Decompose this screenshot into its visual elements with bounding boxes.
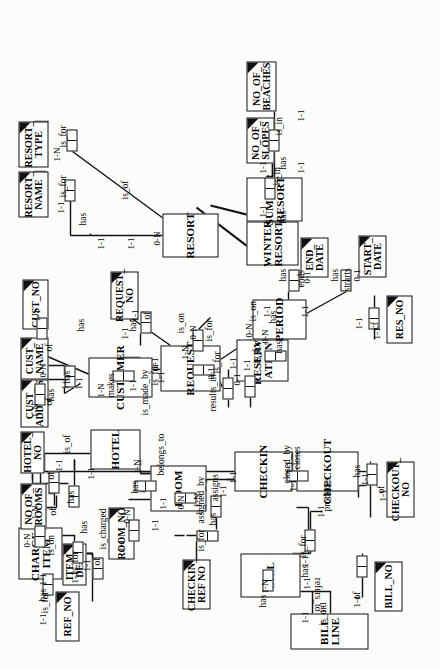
cardinality-c59: 0-N — [152, 231, 161, 245]
relationship-box-r24 — [244, 375, 255, 397]
cardinality-c10: 1-1 — [352, 595, 361, 607]
attribute-box-bill_no: BILL_NO — [374, 561, 402, 611]
cardinality-c17: 1-1 — [218, 485, 227, 497]
verb-label-l26: of — [46, 471, 56, 479]
cardinality-c3: 1-1 — [70, 571, 79, 583]
cardinality-c29: 1-1 — [116, 539, 125, 551]
attribute-box-resort_name: RESORT_ NAME — [18, 171, 48, 217]
cardinality-c43: 0-1 — [206, 367, 215, 379]
cardinality-c34: 1-1 — [74, 377, 83, 389]
cardinality-c40: 1-1 — [130, 309, 139, 321]
cardinality-c19: 1-1 — [288, 479, 297, 491]
cardinality-c23: 1-1 — [158, 497, 167, 509]
verb-label-l28: has — [66, 490, 76, 503]
verb-label-l51: is_for — [204, 319, 214, 341]
cardinality-c7: 1-N — [260, 579, 269, 593]
verb-label-l49: has — [278, 268, 288, 281]
verb-label-l25: is_of — [62, 434, 72, 453]
verb-label-l40: results_in — [208, 374, 218, 411]
cardinality-c51: 1-1 — [300, 305, 309, 317]
cardinality-c56: 1-N — [52, 147, 61, 161]
attribute-box-hotel_no: HOTEL_ NO — [20, 431, 44, 473]
cardinality-c55: 1-1 — [56, 201, 65, 213]
cardinality-c39: 1-1 — [120, 327, 129, 339]
cardinality-c58: 1-1 — [126, 237, 135, 249]
verb-label-l3: of — [92, 557, 102, 565]
cardinality-c46: 1-1 — [228, 357, 237, 369]
cardinality-c28: 1-N — [30, 505, 39, 519]
cardinality-c63: 1-1 — [296, 109, 305, 121]
cardinality-c61: 1-1 — [258, 161, 267, 173]
verb-label-l14: is_for — [70, 551, 80, 573]
cardinality-c12: 1-1 — [316, 505, 325, 517]
cardinality-c41: 1-N — [180, 345, 189, 359]
verb-label-l30: of — [44, 397, 54, 405]
verb-label-l31: of — [44, 343, 54, 351]
cardinality-c4: 1-1 — [82, 559, 91, 571]
cardinality-c47: 0-N — [260, 329, 269, 343]
cardinality-c27: 1-1 — [54, 459, 63, 471]
cardinality-c31: 0-N — [38, 363, 47, 377]
cardinality-c45: 1-1 — [242, 359, 251, 371]
verb-label-l39: is_on — [176, 312, 186, 333]
attribute-box-start_date: START_ DATE — [358, 235, 386, 277]
cardinality-c26: 1-1 — [86, 467, 95, 479]
cardinality-c42: 0-N — [188, 325, 197, 339]
verb-label-l23: belongs_to — [156, 433, 166, 475]
verb-label-l35: is_made_by — [140, 369, 150, 415]
verb-label-l24: has — [130, 480, 140, 493]
cardinality-c2: 1-1 — [38, 573, 47, 585]
cardinality-c35: 1-N — [96, 383, 105, 397]
cardinality-c16: 1-N — [192, 493, 201, 507]
cardinality-c9: 1-1 — [302, 577, 311, 589]
cardinality-c60: 1-1 — [258, 205, 267, 217]
cardinality-c37: 1-1 — [150, 357, 159, 369]
cardinality-c18: 1-1 — [228, 471, 237, 483]
entity-box-winter: WINTER RESORT — [246, 221, 298, 265]
cardinality-c1: 1-1 — [38, 613, 47, 625]
verb-label-l11: is_for — [298, 535, 308, 557]
verb-label-l59: is_in — [274, 117, 284, 135]
cardinality-c48: 1-1 — [372, 327, 381, 339]
relationship-box-r6 — [356, 555, 367, 577]
verb-label-l27: of — [48, 507, 58, 515]
cardinality-c25: 1-N — [132, 459, 141, 473]
verb-label-l48: is_on — [248, 300, 258, 321]
verb-label-l18: is_for — [196, 529, 206, 551]
relationship-box-r2 — [34, 525, 45, 547]
cardinality-c50: 1-1 — [262, 305, 271, 317]
cardinality-c6: 1-1 — [300, 611, 309, 623]
verb-label-l43: has — [274, 340, 284, 353]
cardinality-c54: 0-N — [244, 323, 253, 337]
entity-box-resort: RESORT — [162, 213, 218, 257]
attribute-box-checkout_no: CHECKOUT_ NO — [386, 461, 414, 517]
cardinality-c38: 1-1 — [156, 371, 165, 383]
verb-label-l4: has — [79, 520, 89, 533]
verb-label-l56: has — [278, 210, 288, 223]
cardinality-c11: 1-1 — [300, 555, 309, 567]
attribute-box-ref_no: REF_NO — [55, 591, 79, 641]
er-diagram-canvas: CHARGE_ ITEMBILL LINEBILLROOMHOTELCHECKI… — [0, 0, 440, 669]
verb-label-l54: is_for — [58, 125, 68, 147]
verb-label-l5: is_on — [46, 534, 56, 555]
verb-label-l33: has — [76, 318, 86, 331]
cardinality-c33: 1-1 — [60, 377, 69, 389]
verb-label-l50: has — [330, 268, 340, 281]
diagram-rotor: CHARGE_ ITEMBILL LINEBILLROOMHOTELCHECKI… — [0, 0, 440, 669]
verb-label-l38: of — [142, 311, 152, 319]
attribute-box-resort_type: RESORT_ TYPE — [18, 121, 48, 167]
verb-label-l13: is_charged — [98, 508, 108, 549]
cardinality-c62: 1-1 — [296, 161, 305, 173]
verb-label-l17: has — [208, 512, 218, 525]
cardinality-c36: 1-1 — [128, 379, 137, 391]
cardinality-c5: 0-N — [22, 533, 31, 547]
verb-label-l7: has — [258, 594, 268, 607]
verb-label-l34: makes — [106, 373, 116, 397]
cardinality-c15: 1-1 — [150, 519, 159, 531]
cardinality-c32: 1-1 — [32, 309, 41, 321]
cardinality-c14: 0-N — [122, 509, 131, 523]
verb-label-l58: has — [278, 156, 288, 169]
cardinality-c30: 1-N — [30, 403, 39, 417]
cardinality-c8: 1-1 — [318, 601, 327, 613]
verb-label-l55: is_of — [120, 180, 130, 199]
